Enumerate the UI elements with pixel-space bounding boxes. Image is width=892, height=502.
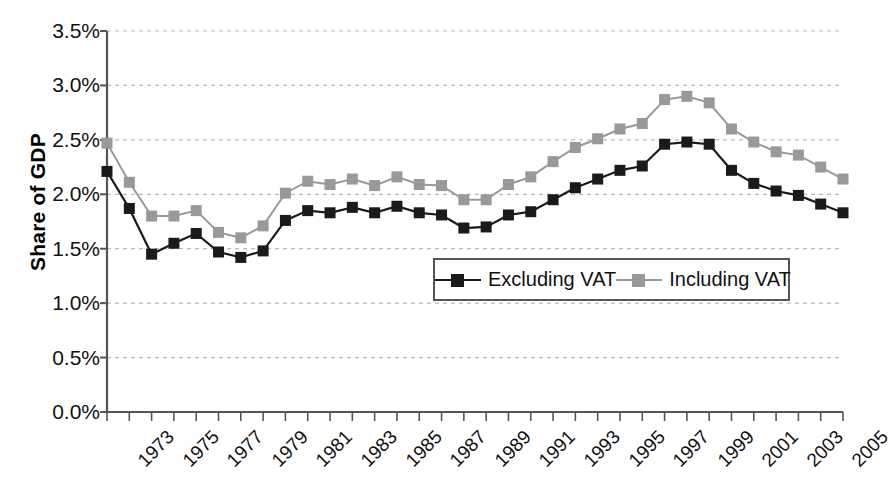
chart-legend: Excluding VAT Including VAT — [433, 258, 790, 301]
x-tick-label: 1991 — [535, 426, 580, 471]
x-tick-label: 1977 — [223, 426, 268, 471]
x-tick-label: 1979 — [267, 426, 312, 471]
legend-label-excluding-vat: Excluding VAT — [488, 268, 616, 291]
x-tick-label: 1973 — [133, 426, 178, 471]
x-tick-label: 2001 — [758, 426, 803, 471]
x-tick-label: 1995 — [624, 426, 669, 471]
x-tick-label: 2005 — [847, 426, 892, 471]
legend-item-including-vat: Including VAT — [616, 268, 791, 291]
x-tick-label: 1999 — [713, 426, 758, 471]
x-tick-label: 1989 — [490, 426, 535, 471]
legend-swatch-including-vat — [616, 272, 662, 288]
x-tick-label: 1981 — [312, 426, 357, 471]
legend-item-excluding-vat: Excluding VAT — [435, 268, 616, 291]
legend-label-including-vat: Including VAT — [669, 268, 791, 291]
x-tick-label: 1987 — [446, 426, 491, 471]
legend-swatch-excluding-vat — [435, 272, 481, 288]
x-tick-label: 1997 — [669, 426, 714, 471]
x-tick-label: 1985 — [401, 426, 446, 471]
x-tick-label: 1993 — [579, 426, 624, 471]
x-tick-label: 1983 — [356, 426, 401, 471]
x-tick-label: 1975 — [178, 426, 223, 471]
x-tick-label: 2003 — [802, 426, 847, 471]
